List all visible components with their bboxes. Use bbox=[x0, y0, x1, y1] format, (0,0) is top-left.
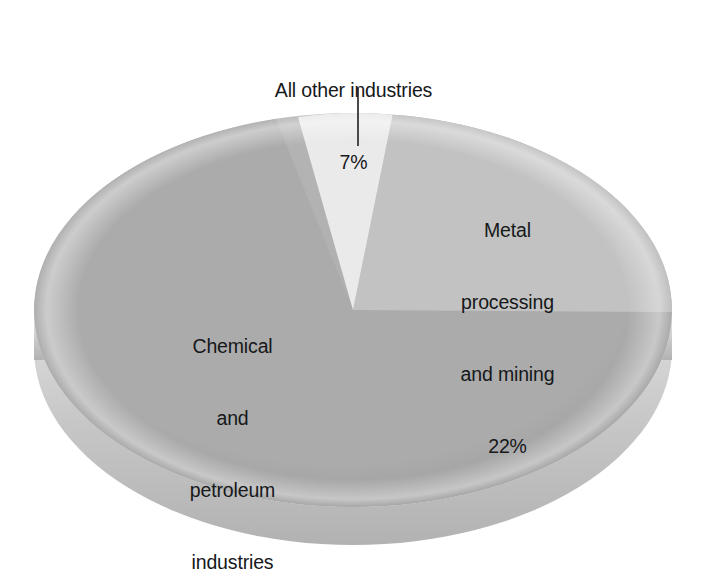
slice-label-chemical-line3: petroleum bbox=[125, 478, 340, 502]
slice-label-other-name: All other industries bbox=[0, 78, 707, 102]
slice-label-metal: Metal processing and mining 22% bbox=[400, 170, 615, 506]
slice-label-metal-value: 22% bbox=[400, 434, 615, 458]
slice-label-metal-line2: processing bbox=[400, 290, 615, 314]
slice-label-chemical-line4: industries bbox=[125, 550, 340, 574]
slice-label-metal-line3: and mining bbox=[400, 362, 615, 386]
slice-label-chemical: Chemical and petroleum industries 71% bbox=[125, 286, 340, 582]
slice-label-chemical-line1: Chemical bbox=[125, 334, 340, 358]
slice-label-chemical-line2: and bbox=[125, 406, 340, 430]
pie-chart-figure: All other industries 7% Metal processing… bbox=[0, 0, 707, 582]
slice-label-metal-line1: Metal bbox=[400, 218, 615, 242]
